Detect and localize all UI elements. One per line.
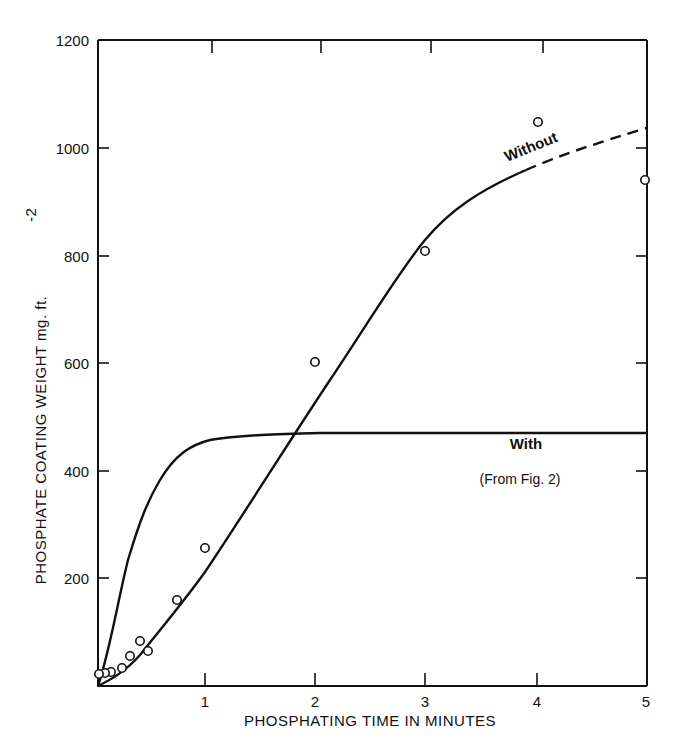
data-point bbox=[173, 596, 181, 604]
y-axis-title-superscript: -2 bbox=[22, 208, 39, 222]
y-tick-200: 200 bbox=[64, 570, 89, 587]
x-axis-ticks bbox=[205, 40, 543, 686]
y-tick-600: 600 bbox=[64, 355, 89, 372]
x-tick-1: 1 bbox=[201, 693, 209, 710]
series-with-curve bbox=[98, 433, 647, 686]
y-tick-800: 800 bbox=[64, 248, 89, 265]
y-tick-1200: 1200 bbox=[56, 32, 89, 49]
data-point bbox=[118, 664, 126, 672]
y-axis-ticks bbox=[98, 148, 647, 578]
y-tick-1000: 1000 bbox=[56, 140, 89, 157]
x-tick-4: 4 bbox=[533, 693, 541, 710]
chart: 200 400 600 800 1000 1200 1 2 3 4 5 PHOS… bbox=[0, 0, 678, 741]
data-point bbox=[534, 118, 542, 126]
data-point bbox=[95, 670, 103, 678]
y-axis-superscript-text: -2 bbox=[22, 208, 39, 222]
data-point bbox=[421, 247, 429, 255]
y-tick-400: 400 bbox=[64, 463, 89, 480]
y-axis-title-text: PHOSPHATE COATING WEIGHT mg. ft. bbox=[32, 296, 49, 585]
plot-frame bbox=[97, 40, 647, 686]
series-without-curve bbox=[98, 170, 526, 686]
y-axis-title: PHOSPHATE COATING WEIGHT mg. ft. bbox=[32, 296, 49, 585]
label-with: With bbox=[510, 435, 542, 452]
x-axis-title: PHOSPHATING TIME IN MINUTES bbox=[244, 712, 496, 729]
x-tick-3: 3 bbox=[421, 693, 429, 710]
label-with-note: (From Fig. 2) bbox=[480, 471, 561, 487]
data-point bbox=[311, 358, 319, 366]
data-point bbox=[641, 176, 649, 184]
x-tick-2: 2 bbox=[311, 693, 319, 710]
data-point bbox=[136, 637, 144, 645]
x-tick-5: 5 bbox=[642, 693, 650, 710]
data-point bbox=[144, 647, 152, 655]
data-point bbox=[201, 544, 209, 552]
series-without-points bbox=[95, 118, 649, 678]
y-tick-labels: 200 400 600 800 1000 1200 bbox=[56, 32, 89, 587]
x-tick-labels: 1 2 3 4 5 bbox=[201, 693, 650, 710]
data-point bbox=[126, 652, 134, 660]
